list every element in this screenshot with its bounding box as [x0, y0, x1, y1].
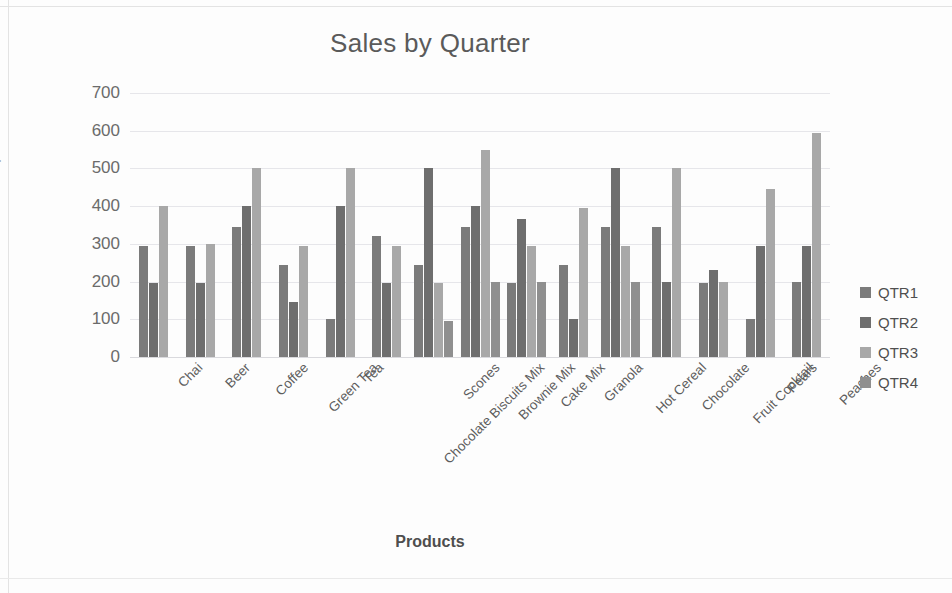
- bar: [491, 282, 500, 357]
- bar: [699, 283, 708, 357]
- bar: [766, 189, 775, 357]
- page-edge-top: [0, 6, 952, 7]
- bar: [672, 168, 681, 357]
- bar: [569, 319, 578, 357]
- bar: [346, 168, 355, 357]
- bar-group: [783, 93, 830, 357]
- bar-group: [410, 93, 457, 357]
- bar: [792, 282, 801, 357]
- y-axis-tick-label: 100: [68, 309, 120, 329]
- bar: [461, 227, 470, 357]
- legend-swatch-icon: [860, 377, 871, 388]
- bar-group: [223, 93, 270, 357]
- x-axis-tick-label: Coffee: [272, 360, 311, 399]
- x-axis-tick-label: Chai: [175, 360, 205, 390]
- bar: [631, 282, 640, 357]
- legend-item: QTR4: [860, 367, 952, 397]
- legend-item: QTR2: [860, 307, 952, 337]
- bar: [242, 206, 251, 357]
- bar: [559, 265, 568, 357]
- bar: [414, 265, 423, 357]
- bar-group: [270, 93, 317, 357]
- x-axis-tick-label: Hot Cereal: [653, 360, 709, 416]
- bar-group: [690, 93, 737, 357]
- bar: [471, 206, 480, 357]
- bar: [517, 219, 526, 357]
- bar: [206, 244, 215, 357]
- bar: [336, 206, 345, 357]
- bar-group: [363, 93, 410, 357]
- legend-item: QTR3: [860, 337, 952, 367]
- chart-legend: QTR1QTR2QTR3QTR4: [860, 277, 952, 397]
- chart-screenshot: Sales by Quarter Sales $ 700600500400300…: [0, 0, 952, 593]
- legend-label: QTR4: [878, 374, 918, 391]
- bar-group: [550, 93, 597, 357]
- legend-label: QTR3: [878, 344, 918, 361]
- bar: [279, 265, 288, 357]
- bar: [232, 227, 241, 357]
- bar: [159, 206, 168, 357]
- y-axis-tick-label: 400: [68, 196, 120, 216]
- bar: [652, 227, 661, 357]
- bar: [579, 208, 588, 357]
- x-axis-tick-label: Pears: [784, 360, 820, 396]
- page-edge-left: [8, 0, 9, 593]
- legend-swatch-icon: [860, 317, 871, 328]
- bar: [289, 302, 298, 357]
- bar-group: [317, 93, 364, 357]
- chart-title: Sales by Quarter: [0, 28, 860, 59]
- y-axis-tick-label: 200: [68, 272, 120, 292]
- bar: [527, 246, 536, 357]
- bar: [196, 283, 205, 357]
- bar: [709, 270, 718, 357]
- bar: [186, 246, 195, 357]
- bar: [139, 246, 148, 357]
- x-axis-ticks: ChaiBeerCoffeeGreen TeaTeaChocolate Bisc…: [130, 360, 830, 480]
- bar: [621, 246, 630, 357]
- y-axis-ticks: 7006005004003002001000: [62, 93, 120, 357]
- y-axis-label: Sales $: [0, 156, 4, 215]
- bar: [434, 283, 443, 357]
- bar: [756, 246, 765, 357]
- bar-group: [503, 93, 550, 357]
- legend-item: QTR1: [860, 277, 952, 307]
- plot-area: [130, 93, 830, 357]
- bar-group: [737, 93, 784, 357]
- bar: [424, 168, 433, 357]
- bar: [537, 282, 546, 357]
- bar: [481, 150, 490, 357]
- bar: [746, 319, 755, 357]
- bar: [507, 283, 516, 357]
- x-axis-tick-label: Granola: [601, 360, 646, 405]
- bar: [601, 227, 610, 357]
- legend-swatch-icon: [860, 347, 871, 358]
- bar: [382, 283, 391, 357]
- bar: [299, 246, 308, 357]
- bar: [252, 168, 261, 357]
- x-axis-label: Products: [0, 533, 860, 551]
- x-axis-line: [130, 357, 830, 358]
- bar-group: [177, 93, 224, 357]
- page-edge-bottom: [0, 578, 952, 579]
- y-axis-tick-label: 0: [68, 347, 120, 367]
- bar: [611, 168, 620, 357]
- y-axis-tick-label: 600: [68, 121, 120, 141]
- bar: [149, 283, 158, 357]
- legend-label: QTR1: [878, 284, 918, 301]
- bar: [392, 246, 401, 357]
- bar: [802, 246, 811, 357]
- bar: [444, 321, 453, 357]
- legend-swatch-icon: [860, 287, 871, 298]
- bar: [326, 319, 335, 357]
- y-axis-tick-label: 300: [68, 234, 120, 254]
- bar-group: [643, 93, 690, 357]
- legend-label: QTR2: [878, 314, 918, 331]
- bar: [812, 133, 821, 357]
- bar-group: [130, 93, 177, 357]
- bar-groups: [130, 93, 830, 357]
- bar-group: [597, 93, 644, 357]
- x-axis-tick-label: Beer: [222, 360, 253, 391]
- bar: [372, 236, 381, 357]
- x-axis-tick-label: Scones: [461, 360, 503, 402]
- y-axis-tick-label: 700: [68, 83, 120, 103]
